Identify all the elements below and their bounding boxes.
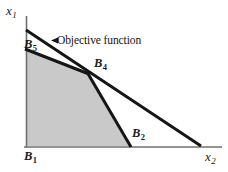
objective-function-annotation: Objective function — [57, 35, 141, 47]
vertex-label-b1-sub: 1 — [33, 155, 37, 165]
vertex-label-b5: B5 — [24, 38, 37, 51]
vertex-label-b4-text: B — [94, 56, 102, 70]
vertex-label-b5-sub: 5 — [33, 43, 37, 53]
vertex-label-b4: B4 — [94, 57, 107, 70]
y-axis-label-sub: 1 — [12, 10, 17, 20]
x-axis-label-text: x — [205, 149, 211, 164]
vertex-label-b2-text: B — [132, 126, 140, 140]
linear-programming-figure: x1 x2 B1 B2 B4 B5 Objective function — [0, 0, 228, 172]
x-axis-label: x2 — [205, 150, 215, 163]
vertex-label-b4-sub: 4 — [103, 62, 107, 72]
plot-canvas — [0, 0, 228, 172]
vertex-label-b1-text: B — [24, 149, 32, 163]
vertex-label-b2: B2 — [132, 127, 145, 140]
x-axis-label-sub: 2 — [211, 156, 216, 166]
y-axis-label: x1 — [6, 4, 16, 17]
vertex-label-b1: B1 — [24, 150, 37, 163]
vertex-label-b2-sub: 2 — [141, 132, 145, 142]
vertex-label-b5-text: B — [24, 37, 32, 51]
y-axis-label-text: x — [6, 3, 12, 18]
